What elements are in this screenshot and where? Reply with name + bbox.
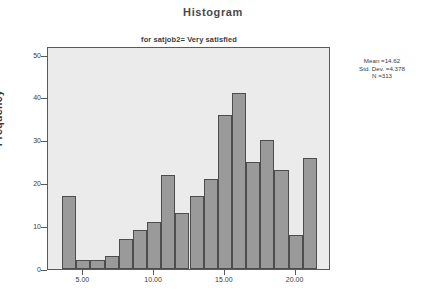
histogram-bar <box>119 239 133 269</box>
x-axis-tick-mark <box>153 270 154 275</box>
x-axis-tick-label: 10.00 <box>133 276 173 283</box>
histogram-bar <box>76 260 90 269</box>
histogram-bar <box>105 256 119 269</box>
stat-n: N =313 <box>340 72 424 80</box>
x-axis-tick-mark <box>295 270 296 275</box>
stat-std-dev: Std. Dev. =4.378 <box>340 65 424 73</box>
histogram-bar <box>274 170 288 269</box>
histogram-bar <box>303 158 317 270</box>
y-axis-label: Frequency <box>0 58 4 178</box>
chart-subtitle: for satjob2= Very satisfied <box>47 35 331 44</box>
x-axis-tick-label: 5.00 <box>62 276 102 283</box>
histogram-bar <box>90 260 104 269</box>
statistics-annotation: Mean =14.62 Std. Dev. =4.378 N =313 <box>340 57 424 80</box>
x-axis-tick-mark <box>224 270 225 275</box>
histogram-bar <box>190 196 204 269</box>
histogram-bar <box>133 230 147 269</box>
histogram-bar <box>161 175 175 269</box>
histogram-bar <box>218 115 232 269</box>
y-axis-tick-label: 0 <box>15 266 41 273</box>
y-axis-tick-label: 50 <box>15 52 41 59</box>
histogram-bar <box>204 179 218 269</box>
histogram-bar <box>246 162 260 269</box>
histogram-bar <box>260 140 274 269</box>
histogram-bar <box>62 196 76 269</box>
plot-area <box>47 47 330 270</box>
histogram-bar <box>147 222 161 269</box>
histogram-bar <box>175 213 189 269</box>
x-axis-tick-label: 20.00 <box>275 276 315 283</box>
y-axis-tick-label: 20 <box>15 180 41 187</box>
y-axis-tick-label: 40 <box>15 94 41 101</box>
bars-container <box>48 48 329 269</box>
histogram-bar <box>289 235 303 269</box>
histogram-bar <box>232 93 246 269</box>
x-axis-tick-mark <box>82 270 83 275</box>
y-axis-tick-label: 30 <box>15 137 41 144</box>
y-axis-tick-label: 10 <box>15 223 41 230</box>
x-axis-tick-label: 15.00 <box>204 276 244 283</box>
y-axis-tick-mark <box>41 270 47 271</box>
page-title: Histogram <box>0 6 426 18</box>
stat-mean: Mean =14.62 <box>340 57 424 65</box>
